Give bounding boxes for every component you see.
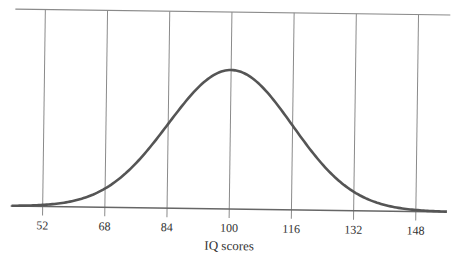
x-tick-label: 68	[99, 219, 111, 233]
vertical-gridlines	[43, 9, 419, 220]
x-tick-label: 148	[406, 223, 424, 237]
gridline-100	[229, 12, 232, 218]
normal-curve-chart: 526884100116132148 IQ scores	[0, 0, 460, 258]
gridline-116	[291, 13, 294, 219]
x-tick-label: 84	[161, 220, 173, 234]
x-axis-line	[11, 206, 446, 212]
x-axis-title: IQ scores	[204, 238, 254, 254]
gridline-84	[167, 11, 170, 217]
gridline-132	[354, 14, 357, 220]
gridline-68	[105, 10, 108, 216]
top-border-line	[15, 9, 450, 15]
plot-area: 526884100116132148 IQ scores	[10, 9, 450, 256]
x-tick-label: 116	[282, 222, 300, 236]
gridline-52	[43, 9, 46, 215]
x-tick-labels: 526884100116132148	[36, 218, 424, 237]
x-tick-label: 52	[36, 218, 48, 232]
x-tick-label: 100	[220, 221, 238, 235]
x-tick-label: 132	[344, 223, 362, 237]
gridline-148	[416, 15, 419, 221]
